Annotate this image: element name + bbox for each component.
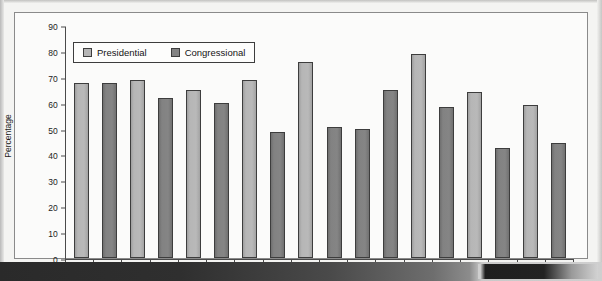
bar-2000 <box>467 92 482 258</box>
bar-1991 <box>383 90 398 258</box>
legend-item-presidential: Presidential <box>83 47 147 58</box>
legend-swatch-congressional-icon <box>171 48 180 57</box>
bar-2006 <box>523 105 538 258</box>
bar-slot <box>264 27 292 258</box>
bar-2009 <box>551 143 566 258</box>
bar-slot <box>292 27 320 258</box>
y-axis-title: Percentage <box>3 114 13 157</box>
bar-slot <box>517 27 545 258</box>
legend-label-presidential: Presidential <box>97 47 147 58</box>
bar-slot <box>320 27 348 258</box>
bar-1964 <box>130 80 145 258</box>
bar-slot <box>404 27 432 258</box>
bar-1973 <box>214 103 229 258</box>
bar-1979 <box>270 132 285 258</box>
chart-legend: Presidential Congressional <box>73 42 255 63</box>
scan-edge-top <box>0 0 602 3</box>
y-axis-tick-label: 30 <box>48 177 58 187</box>
bar-1985 <box>327 127 342 258</box>
bar-1958 <box>74 83 89 258</box>
chart-frame: Percentage 0102030405060708090 195819611… <box>14 12 588 259</box>
bar-1994 <box>411 54 426 258</box>
scan-shadow-band-right <box>478 264 598 279</box>
y-axis-tick-label: 40 <box>48 151 58 161</box>
y-axis-tick-label: 10 <box>48 229 58 239</box>
bar-slot <box>489 27 517 258</box>
y-axis-labels: 0102030405060708090 <box>29 27 63 260</box>
bar-1961 <box>102 83 117 258</box>
y-axis-tick-label: 70 <box>48 74 58 84</box>
y-axis-tick-label: 80 <box>48 48 58 58</box>
bar-2004 <box>495 148 510 258</box>
legend-item-congressional: Congressional <box>171 47 246 58</box>
bar-slot <box>461 27 489 258</box>
bar-slot <box>348 27 376 258</box>
legend-swatch-presidential-icon <box>83 48 92 57</box>
y-axis-tick-label: 20 <box>48 203 58 213</box>
scanned-chart-page: Percentage 0102030405060708090 195819611… <box>0 0 602 281</box>
bar-slot <box>545 27 573 258</box>
bar-1970 <box>186 90 201 258</box>
bar-slot <box>376 27 404 258</box>
bar-1976 <box>242 80 257 258</box>
scan-edge-right <box>597 0 602 281</box>
bar-1982 <box>298 62 313 258</box>
bar-1967 <box>158 98 173 258</box>
y-axis-tick-label: 90 <box>48 22 58 32</box>
bar-1988 <box>355 129 370 258</box>
y-axis-tick-label: 50 <box>48 126 58 136</box>
legend-label-congressional: Congressional <box>185 47 246 58</box>
bar-1997 <box>439 107 454 258</box>
bar-slot <box>432 27 460 258</box>
y-axis-tick-label: 60 <box>48 100 58 110</box>
